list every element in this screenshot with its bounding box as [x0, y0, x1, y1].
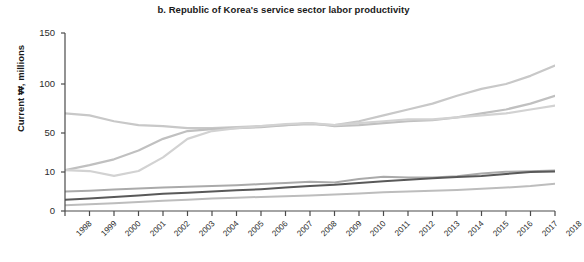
- x-tick-label: 2006: [270, 219, 289, 238]
- x-tick-label: 2015: [491, 219, 510, 238]
- x-tick-label: 2007: [295, 219, 314, 238]
- x-tick-label: 2005: [246, 219, 265, 238]
- line-series-3: [65, 106, 555, 176]
- plot-area: [65, 33, 555, 211]
- x-tick-label: 2009: [344, 219, 363, 238]
- x-tick-label: 2008: [319, 219, 338, 238]
- x-tick-label: 2017: [540, 219, 559, 238]
- x-tick-label: 1999: [99, 219, 118, 238]
- line-series-2: [65, 96, 555, 170]
- x-tick-label: 2016: [515, 219, 534, 238]
- y-tick-label: 150: [15, 27, 55, 38]
- x-tick-label: 1998: [74, 219, 93, 238]
- x-tick-label: 2013: [442, 219, 461, 238]
- x-tick-label: 2004: [221, 219, 240, 238]
- x-tick-label: 2002: [172, 219, 191, 238]
- y-tick-label: 10: [15, 166, 55, 177]
- y-tick-label: 0: [15, 205, 55, 216]
- line-series-1: [65, 66, 555, 128]
- x-tick-label: 2011: [393, 219, 412, 238]
- x-tick-label: 2003: [197, 219, 216, 238]
- x-tick-label: 2012: [417, 219, 436, 238]
- x-tick-label: 2000: [123, 219, 142, 238]
- series-lines: [65, 33, 555, 211]
- y-tick-label: 100: [15, 78, 55, 89]
- y-tick-label: 50: [15, 127, 55, 138]
- x-tick-label: 2010: [368, 219, 387, 238]
- x-tick-label: 2001: [148, 219, 167, 238]
- x-tick-label: 2014: [466, 219, 485, 238]
- chart-title: b. Republic of Korea's service sector la…: [0, 4, 567, 15]
- x-tick-label: 2018: [564, 219, 583, 238]
